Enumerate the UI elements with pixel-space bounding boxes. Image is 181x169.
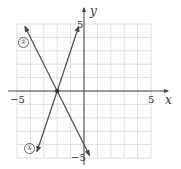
x-tick-pos5: 5 xyxy=(148,95,154,105)
x-tick-neg5: −5 xyxy=(10,95,25,105)
y-tick-pos5: 5 xyxy=(77,20,83,30)
x-axis-label: x xyxy=(165,94,172,106)
axes xyxy=(8,8,168,165)
line-2-marker: ② xyxy=(18,37,29,48)
line-1-marker: ① xyxy=(24,143,35,154)
y-tick-neg5: −5 xyxy=(71,153,86,163)
y-axis-label: y xyxy=(90,5,97,17)
